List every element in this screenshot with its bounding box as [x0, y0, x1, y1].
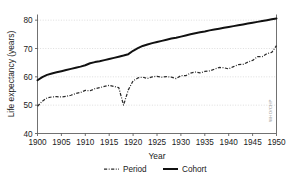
x-tick-label-1925: 1925 [148, 138, 167, 147]
x-tick-label-1920: 1920 [124, 138, 143, 147]
x-tick-label-1910: 1910 [76, 138, 95, 147]
chart-figure: 4050607080 19001905191019151920192519301… [0, 0, 294, 176]
y-tick-label-70: 70 [23, 45, 33, 54]
legend-label-cohort: Cohort [182, 165, 207, 174]
figure-background [0, 0, 294, 176]
x-tick-label-1945: 1945 [243, 138, 262, 147]
y-tick-label-60: 60 [23, 73, 33, 82]
x-tick-label-1940: 1940 [220, 138, 239, 147]
x-tick-label-1950: 1950 [267, 138, 286, 147]
x-tick-label-1900: 1900 [28, 138, 47, 147]
x-tick-label-1915: 1915 [100, 138, 119, 147]
x-tick-label-1930: 1930 [172, 138, 191, 147]
x-tick-label-1935: 1935 [196, 138, 215, 147]
watermark-label: WHO/CHP [268, 99, 273, 122]
legend-label-period: Period [123, 165, 147, 174]
x-tick-label-1905: 1905 [52, 138, 71, 147]
y-tick-label-80: 80 [23, 16, 33, 25]
y-tick-label-50: 50 [23, 101, 33, 110]
life-expectancy-line-chart: 4050607080 19001905191019151920192519301… [0, 0, 294, 176]
x-axis-title: Year [149, 151, 166, 161]
y-axis-title: Life expectancy (years) [6, 31, 16, 118]
